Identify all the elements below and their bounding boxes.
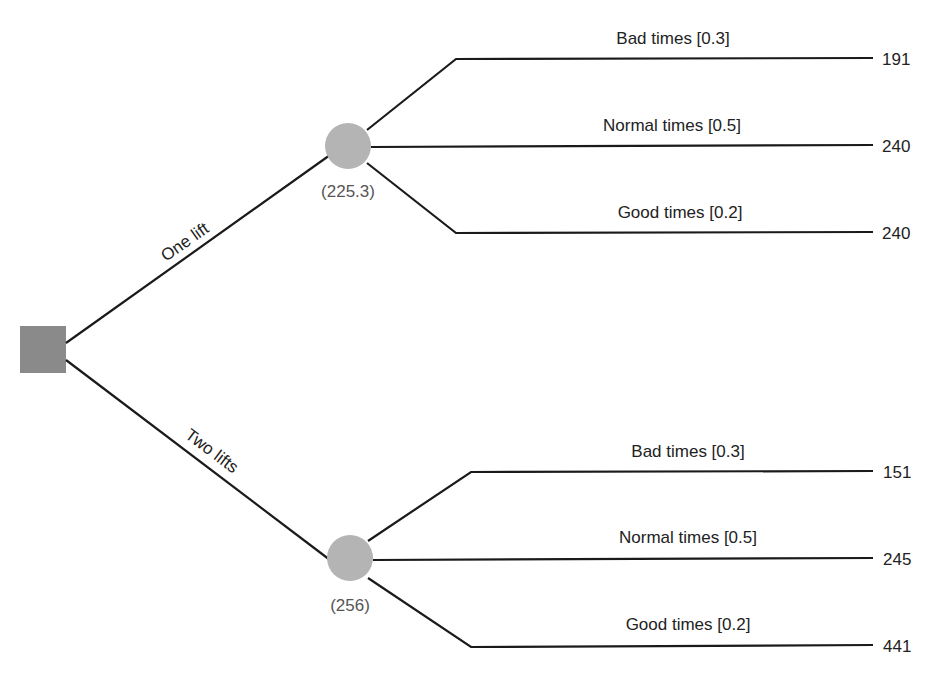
payoff: 441 bbox=[883, 637, 911, 656]
payoff: 240 bbox=[882, 137, 910, 156]
outcome-label: Bad times [0.3] bbox=[631, 442, 744, 461]
outcome-edge bbox=[367, 163, 873, 233]
chance-node-two-lifts bbox=[327, 535, 373, 581]
payoff: 240 bbox=[882, 224, 910, 243]
payoff: 191 bbox=[882, 50, 910, 69]
outcome-label: Normal times [0.5] bbox=[619, 528, 757, 547]
branch-two-lifts bbox=[66, 360, 330, 560]
outcome-label: Normal times [0.5] bbox=[603, 116, 741, 135]
outcome-label: Bad times [0.3] bbox=[616, 29, 729, 48]
decision-tree: One lift Two lifts (225.3) Bad times [0.… bbox=[0, 0, 952, 683]
decision-node bbox=[20, 326, 66, 373]
outcome-label: Good times [0.2] bbox=[626, 615, 751, 634]
expected-value-two-lifts: (256) bbox=[330, 596, 370, 615]
outcome-edge bbox=[368, 578, 873, 647]
branch-one-lift bbox=[66, 155, 330, 343]
chance-node-one-lift bbox=[325, 123, 371, 169]
outcome-edge bbox=[371, 145, 873, 147]
payoff: 151 bbox=[883, 463, 911, 482]
outcome-edge bbox=[373, 558, 873, 560]
payoff: 245 bbox=[883, 550, 911, 569]
expected-value-one-lift: (225.3) bbox=[321, 182, 375, 201]
outcome-label: Good times [0.2] bbox=[618, 203, 743, 222]
